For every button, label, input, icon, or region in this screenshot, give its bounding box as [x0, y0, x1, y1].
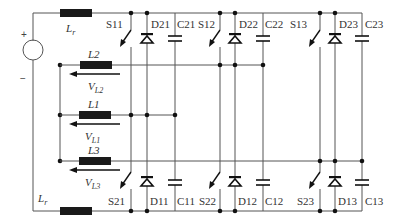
capacitor-c12-icon: [256, 180, 270, 185]
source-plus-sign: +: [21, 29, 27, 40]
inductor-l1: L1 VL1: [60, 98, 175, 145]
switch-s13-icon: [309, 30, 320, 47]
c21-label: C21: [177, 18, 195, 30]
diode-d21-icon: [141, 33, 153, 43]
svg-text:Lr: Lr: [65, 22, 76, 37]
capacitor-c22-icon: [256, 36, 270, 41]
source-minus-sign: −: [20, 73, 26, 84]
circuit-diagram: + − Lr Lr L2 VL2 L1 VL1 L3: [0, 0, 403, 224]
l1-label: L1: [87, 98, 100, 110]
svg-text:VL1: VL1: [85, 130, 100, 145]
lr-top-label: L: [65, 22, 72, 34]
d11-label: D11: [150, 195, 169, 207]
d23-label: D23: [339, 18, 358, 30]
inductor-l2: L2 VL2: [60, 48, 263, 95]
c11-label: C11: [177, 195, 195, 207]
capacitor-c23-icon: [355, 36, 369, 41]
switch-s11-icon: [120, 30, 131, 47]
l3-label: L3: [87, 144, 100, 156]
c22-label: C22: [265, 18, 283, 30]
diode-d23-icon: [329, 33, 341, 43]
s21-label: S21: [108, 195, 125, 207]
svg-text:VL2: VL2: [88, 80, 103, 95]
d12-label: D12: [238, 195, 257, 207]
s22-label: S22: [199, 195, 216, 207]
capacitor-c13-icon: [355, 180, 369, 185]
lr-bottom-label: L: [37, 192, 44, 204]
capacitor-c21-icon: [168, 36, 182, 41]
svg-text:VL3: VL3: [85, 176, 100, 191]
switch-s23-icon: [309, 172, 320, 189]
inductor-lr-bottom: Lr: [37, 192, 92, 215]
diode-d22-icon: [229, 33, 241, 43]
s11-label: S11: [106, 18, 123, 30]
d13-label: D13: [338, 195, 357, 207]
inductor-lr-top: Lr: [60, 9, 92, 37]
s23-label: S23: [297, 195, 315, 207]
c23-label: C23: [365, 18, 384, 30]
switch-s22-icon: [209, 172, 220, 189]
s13-label: S13: [290, 18, 308, 30]
l2-label: L2: [87, 48, 100, 60]
c13-label: C13: [365, 195, 384, 207]
d21-label: D21: [151, 18, 170, 30]
diode-d12-icon: [229, 176, 241, 186]
diode-d11-icon: [141, 176, 153, 186]
dc-source: + −: [20, 13, 43, 211]
svg-text:Lr: Lr: [37, 192, 48, 207]
switch-s21-icon: [120, 172, 131, 189]
c12-label: C12: [265, 195, 283, 207]
diode-d13-icon: [329, 176, 341, 186]
switch-s12-icon: [209, 30, 220, 47]
capacitor-c11-icon: [168, 180, 182, 185]
s12-label: S12: [198, 18, 215, 30]
d22-label: D22: [239, 18, 258, 30]
